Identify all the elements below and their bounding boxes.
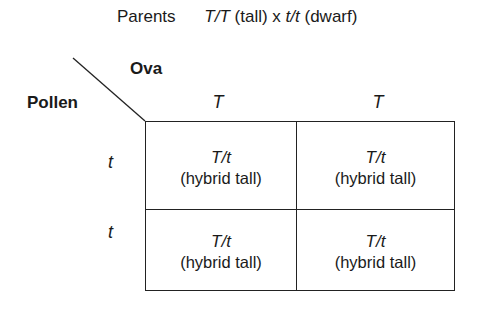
parents-cross-title: Parents T/T (tall) x t/t (dwarf) [117, 7, 357, 27]
cell-phenotype: (hybrid tall) [180, 252, 262, 272]
cell-phenotype: (hybrid tall) [180, 168, 262, 188]
column-header-0: T [208, 92, 228, 113]
parent1-phenotype: (tall) [235, 7, 268, 26]
cell-genotype: T/t [211, 232, 231, 252]
parent2-genotype: t/t [286, 7, 300, 26]
cell-phenotype: (hybrid tall) [335, 168, 417, 188]
ova-axis-label: Ova [130, 59, 162, 79]
parents-label: Parents [117, 7, 176, 26]
cross-symbol: x [272, 7, 281, 26]
punnett-cell: T/t (hybrid tall) [297, 122, 454, 210]
column-header-1: T [368, 92, 388, 113]
row-header-0: t [108, 152, 113, 173]
punnett-cell: T/t (hybrid tall) [146, 122, 297, 210]
punnett-cell: T/t (hybrid tall) [297, 210, 454, 290]
cell-genotype: T/t [366, 232, 386, 252]
cell-genotype: T/t [366, 148, 386, 168]
parent1-genotype: T/T [204, 7, 230, 26]
punnett-square: T/t (hybrid tall) T/t (hybrid tall) T/t … [145, 121, 455, 291]
cell-genotype: T/t [211, 148, 231, 168]
cell-phenotype: (hybrid tall) [335, 252, 417, 272]
row-header-1: t [108, 222, 113, 243]
punnett-cell: T/t (hybrid tall) [146, 210, 297, 290]
pollen-axis-label: Pollen [27, 93, 78, 113]
parent2-phenotype: (dwarf) [305, 7, 358, 26]
